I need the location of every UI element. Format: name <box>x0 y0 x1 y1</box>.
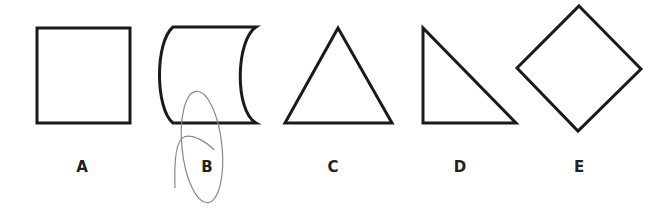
label-c: C <box>318 158 348 176</box>
diamond-shape-e <box>517 6 641 131</box>
label-a: A <box>67 158 97 176</box>
label-d: D <box>445 158 475 176</box>
square-shape-a <box>37 28 130 123</box>
right-triangle-shape-d <box>423 28 516 123</box>
triangle-shape-c <box>285 28 392 123</box>
pen-circle-annotation <box>175 89 228 205</box>
shapes-diagram <box>0 0 672 208</box>
label-e: E <box>564 158 594 176</box>
label-b: B <box>192 158 222 176</box>
cylinder-shape-b <box>160 27 257 123</box>
